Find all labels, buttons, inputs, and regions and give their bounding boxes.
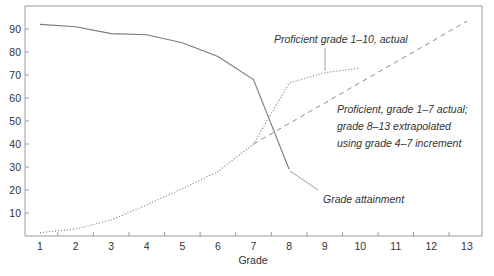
x-tick-label: 7 <box>251 240 257 252</box>
x-axis-ticks: 12345678910111213 <box>37 232 473 252</box>
y-tick-label: 50 <box>9 115 21 127</box>
x-tick-label: 2 <box>73 240 79 252</box>
y-tick-label: 70 <box>9 69 21 81</box>
x-tick-label: 6 <box>215 240 221 252</box>
y-axis-ticks: 102030405060708090 <box>9 23 29 219</box>
x-tick-label: 4 <box>144 240 150 252</box>
x-tick-label: 11 <box>390 240 401 252</box>
x-tick-label: 10 <box>354 240 366 252</box>
y-tick-label: 60 <box>9 92 21 104</box>
x-tick-label: 3 <box>108 240 114 252</box>
x-tick-label: 12 <box>426 240 438 252</box>
annotation-grade-attainment: Grade attainment <box>323 193 405 205</box>
x-tick-label: 1 <box>37 240 43 252</box>
x-tick-label: 13 <box>461 240 473 252</box>
y-tick-label: 80 <box>9 46 21 58</box>
x-tick-label: 8 <box>286 240 292 252</box>
annotation-extrapolated-line1: Proficient, grade 1–7 actual; <box>337 103 468 115</box>
x-tick-label: 9 <box>322 240 328 252</box>
x-tick-label: 5 <box>179 240 185 252</box>
series-line-dotted <box>40 68 360 233</box>
y-tick-label: 20 <box>9 184 21 196</box>
annotation-extrapolated-line2: grade 8–13 extrapolated <box>337 120 452 132</box>
annotation-extrapolated-line3: using grade 4–7 increment <box>337 137 462 149</box>
annotation-proficient-actual: Proficient grade 1–10, actual <box>274 33 408 45</box>
y-tick-label: 90 <box>9 23 21 35</box>
y-tick-label: 40 <box>9 138 21 150</box>
x-axis-title: Grade <box>238 254 267 266</box>
series-line-solid <box>40 24 289 169</box>
y-tick-label: 30 <box>9 161 21 173</box>
line-chart: 102030405060708090 12345678910111213 Gra… <box>0 0 494 276</box>
y-tick-label: 10 <box>9 207 21 219</box>
annotation-leader-attainment <box>290 171 318 190</box>
